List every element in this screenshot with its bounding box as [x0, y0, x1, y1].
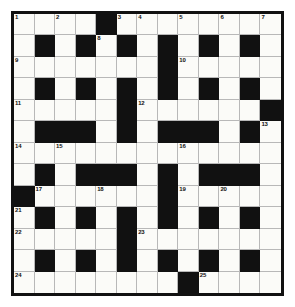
grid-letter-cell[interactable]: 16 [178, 143, 199, 164]
grid-letter-cell[interactable] [260, 78, 281, 99]
grid-letter-cell[interactable] [96, 250, 117, 271]
grid-letter-cell[interactable] [55, 57, 76, 78]
grid-letter-cell[interactable] [96, 229, 117, 250]
grid-letter-cell[interactable]: 23 [137, 229, 158, 250]
grid-letter-cell[interactable] [55, 250, 76, 271]
grid-letter-cell[interactable] [14, 121, 35, 142]
grid-letter-cell[interactable]: 9 [14, 57, 35, 78]
grid-letter-cell[interactable]: 19 [178, 186, 199, 207]
grid-letter-cell[interactable]: 12 [137, 100, 158, 121]
grid-letter-cell[interactable] [260, 272, 281, 293]
grid-letter-cell[interactable] [178, 100, 199, 121]
grid-letter-cell[interactable]: 25 [199, 272, 220, 293]
grid-letter-cell[interactable] [96, 100, 117, 121]
grid-letter-cell[interactable] [240, 186, 261, 207]
grid-letter-cell[interactable] [240, 14, 261, 35]
grid-letter-cell[interactable] [240, 143, 261, 164]
grid-letter-cell[interactable] [199, 186, 220, 207]
grid-letter-cell[interactable] [158, 100, 179, 121]
grid-letter-cell[interactable] [158, 229, 179, 250]
grid-letter-cell[interactable] [137, 164, 158, 185]
grid-letter-cell[interactable]: 17 [35, 186, 56, 207]
grid-letter-cell[interactable] [199, 143, 220, 164]
grid-letter-cell[interactable] [240, 272, 261, 293]
grid-letter-cell[interactable] [158, 143, 179, 164]
grid-letter-cell[interactable] [199, 100, 220, 121]
grid-letter-cell[interactable] [137, 207, 158, 228]
grid-letter-cell[interactable] [55, 35, 76, 56]
grid-letter-cell[interactable] [260, 250, 281, 271]
grid-letter-cell[interactable] [35, 143, 56, 164]
grid-letter-cell[interactable] [35, 229, 56, 250]
grid-letter-cell[interactable]: 5 [178, 14, 199, 35]
grid-letter-cell[interactable] [178, 78, 199, 99]
grid-letter-cell[interactable] [96, 207, 117, 228]
grid-letter-cell[interactable] [260, 57, 281, 78]
grid-letter-cell[interactable] [76, 186, 97, 207]
grid-letter-cell[interactable] [76, 272, 97, 293]
grid-letter-cell[interactable] [35, 57, 56, 78]
grid-letter-cell[interactable]: 15 [55, 143, 76, 164]
grid-letter-cell[interactable] [219, 272, 240, 293]
grid-letter-cell[interactable] [55, 78, 76, 99]
grid-letter-cell[interactable] [137, 186, 158, 207]
grid-letter-cell[interactable] [199, 229, 220, 250]
crossword-grid[interactable]: 1234567891011121314151617181920212223242… [14, 14, 281, 293]
grid-letter-cell[interactable] [137, 121, 158, 142]
grid-letter-cell[interactable] [178, 164, 199, 185]
grid-letter-cell[interactable] [35, 14, 56, 35]
grid-letter-cell[interactable] [76, 229, 97, 250]
grid-letter-cell[interactable] [219, 35, 240, 56]
grid-letter-cell[interactable] [55, 229, 76, 250]
grid-letter-cell[interactable] [178, 250, 199, 271]
grid-letter-cell[interactable] [14, 250, 35, 271]
grid-letter-cell[interactable] [96, 57, 117, 78]
grid-letter-cell[interactable]: 22 [14, 229, 35, 250]
grid-letter-cell[interactable] [96, 121, 117, 142]
grid-letter-cell[interactable]: 3 [117, 14, 138, 35]
grid-letter-cell[interactable] [137, 78, 158, 99]
grid-letter-cell[interactable] [96, 78, 117, 99]
grid-letter-cell[interactable] [96, 143, 117, 164]
grid-letter-cell[interactable]: 10 [178, 57, 199, 78]
grid-letter-cell[interactable]: 13 [260, 121, 281, 142]
grid-letter-cell[interactable] [260, 186, 281, 207]
grid-letter-cell[interactable] [137, 250, 158, 271]
grid-letter-cell[interactable] [55, 100, 76, 121]
grid-letter-cell[interactable] [260, 207, 281, 228]
grid-letter-cell[interactable] [76, 14, 97, 35]
grid-letter-cell[interactable] [260, 35, 281, 56]
grid-letter-cell[interactable] [14, 78, 35, 99]
grid-letter-cell[interactable] [219, 229, 240, 250]
grid-letter-cell[interactable] [219, 121, 240, 142]
grid-letter-cell[interactable]: 11 [14, 100, 35, 121]
grid-letter-cell[interactable]: 1 [14, 14, 35, 35]
grid-letter-cell[interactable] [137, 35, 158, 56]
grid-letter-cell[interactable] [219, 207, 240, 228]
grid-letter-cell[interactable] [55, 207, 76, 228]
grid-letter-cell[interactable] [158, 14, 179, 35]
grid-letter-cell[interactable] [260, 164, 281, 185]
grid-letter-cell[interactable] [240, 100, 261, 121]
grid-letter-cell[interactable] [240, 229, 261, 250]
grid-letter-cell[interactable] [178, 229, 199, 250]
grid-letter-cell[interactable] [14, 35, 35, 56]
grid-letter-cell[interactable]: 8 [96, 35, 117, 56]
grid-letter-cell[interactable] [137, 143, 158, 164]
grid-letter-cell[interactable]: 2 [55, 14, 76, 35]
grid-letter-cell[interactable] [55, 186, 76, 207]
grid-letter-cell[interactable] [96, 272, 117, 293]
grid-letter-cell[interactable] [76, 100, 97, 121]
grid-letter-cell[interactable] [240, 57, 261, 78]
grid-letter-cell[interactable] [137, 272, 158, 293]
grid-letter-cell[interactable] [219, 143, 240, 164]
grid-letter-cell[interactable] [14, 164, 35, 185]
grid-letter-cell[interactable] [199, 57, 220, 78]
grid-letter-cell[interactable] [178, 207, 199, 228]
grid-letter-cell[interactable] [158, 272, 179, 293]
grid-letter-cell[interactable] [76, 57, 97, 78]
grid-letter-cell[interactable] [35, 100, 56, 121]
grid-letter-cell[interactable]: 6 [219, 14, 240, 35]
grid-letter-cell[interactable]: 7 [260, 14, 281, 35]
grid-letter-cell[interactable] [219, 57, 240, 78]
